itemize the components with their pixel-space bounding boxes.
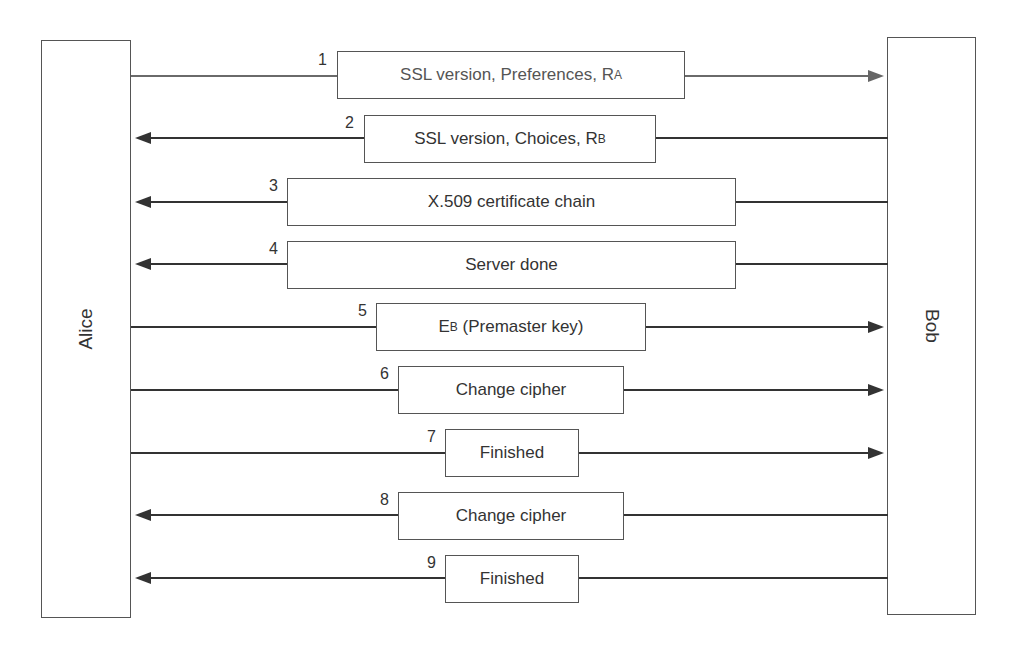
message-4-number: 4	[269, 240, 278, 258]
arrow-right-icon	[868, 447, 884, 459]
message-7-text: Finished	[480, 443, 544, 463]
actor-alice-box: Alice	[41, 40, 131, 618]
arrow-left-icon	[135, 258, 151, 270]
actor-bob-label: Bob	[921, 309, 943, 343]
message-6-number: 6	[380, 365, 389, 383]
message-4-box: Server done	[287, 241, 736, 289]
message-9-box: Finished	[445, 555, 579, 603]
arrow-right-icon	[868, 70, 884, 82]
message-6-text: Change cipher	[456, 380, 567, 400]
message-2-subscript: B	[598, 132, 606, 146]
message-7-box: Finished	[445, 429, 579, 477]
message-5-subscript: B	[450, 320, 458, 334]
message-5-number: 5	[358, 302, 367, 320]
message-2-number: 2	[345, 114, 354, 132]
arrow-left-icon	[135, 196, 151, 208]
message-5-prefix: E	[439, 317, 450, 337]
arrow-left-icon	[135, 132, 151, 144]
message-2-text: SSL version, Choices, R	[414, 129, 598, 149]
message-6-box: Change cipher	[398, 366, 624, 414]
actor-alice-label: Alice	[75, 308, 97, 349]
message-5-box: EB (Premaster key)	[376, 303, 646, 351]
message-7-number: 7	[427, 428, 436, 446]
message-1-text: SSL version, Preferences, R	[400, 65, 614, 85]
message-3-text: X.509 certificate chain	[428, 192, 595, 212]
arrow-left-icon	[135, 572, 151, 584]
message-8-text: Change cipher	[456, 506, 567, 526]
message-9-number: 9	[427, 554, 436, 572]
message-3-box: X.509 certificate chain	[287, 178, 736, 226]
arrow-left-icon	[135, 509, 151, 521]
message-3-number: 3	[269, 177, 278, 195]
message-4-text: Server done	[465, 255, 558, 275]
message-8-number: 8	[380, 491, 389, 509]
actor-bob-box: Bob	[887, 37, 976, 615]
arrow-right-icon	[868, 321, 884, 333]
arrow-right-icon	[868, 384, 884, 396]
message-8-box: Change cipher	[398, 492, 624, 540]
message-1-subscript: A	[614, 68, 622, 82]
message-5-text: (Premaster key)	[458, 317, 584, 337]
message-9-text: Finished	[480, 569, 544, 589]
message-1-box: SSL version, Preferences, RA	[337, 51, 685, 99]
message-2-box: SSL version, Choices, RB	[364, 115, 656, 163]
message-1-number: 1	[318, 51, 327, 69]
